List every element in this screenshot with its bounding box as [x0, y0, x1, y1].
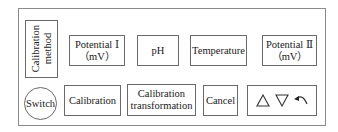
- calibration-method-line2: method: [42, 25, 54, 72]
- navigation-controls: [247, 85, 317, 116]
- calibration-button[interactable]: Calibration: [64, 85, 121, 116]
- ph-label: pH: [152, 45, 165, 57]
- calibration-transformation-button[interactable]: Calibration transformation: [127, 84, 196, 116]
- potential-1-display[interactable]: Potential Ⅰ （mV）: [69, 35, 125, 66]
- switch-label: Switch: [26, 98, 55, 109]
- potential-2-display[interactable]: Potential Ⅱ （mV）: [262, 35, 317, 66]
- temperature-label: Temperature: [192, 45, 245, 57]
- down-button[interactable]: [274, 93, 290, 109]
- calibration-label: Calibration: [69, 95, 116, 107]
- calibration-method-label: Calibration method: [30, 25, 54, 72]
- triangle-down-icon: [275, 94, 289, 107]
- back-button[interactable]: [293, 93, 309, 109]
- cancel-button[interactable]: Cancel: [203, 85, 238, 116]
- cancel-label: Cancel: [206, 95, 235, 107]
- return-arrow-icon: [293, 94, 309, 107]
- potential-2-line2: （mV）: [266, 51, 313, 63]
- calibration-transformation-line2: transformation: [131, 100, 193, 112]
- calibration-transformation-line1: Calibration: [131, 88, 193, 100]
- calibration-method-button[interactable]: Calibration method: [25, 20, 58, 78]
- up-button[interactable]: [255, 93, 271, 109]
- potential-2-line1: Potential Ⅱ: [266, 39, 313, 51]
- triangle-up-icon: [256, 94, 270, 107]
- temperature-display[interactable]: Temperature: [190, 35, 247, 66]
- potential-1-line2: （mV）: [75, 51, 119, 63]
- ph-display[interactable]: pH: [137, 35, 179, 66]
- switch-button[interactable]: Switch: [24, 87, 57, 120]
- calibration-method-line1: Calibration: [30, 25, 42, 72]
- potential-1-line1: Potential Ⅰ: [75, 39, 119, 51]
